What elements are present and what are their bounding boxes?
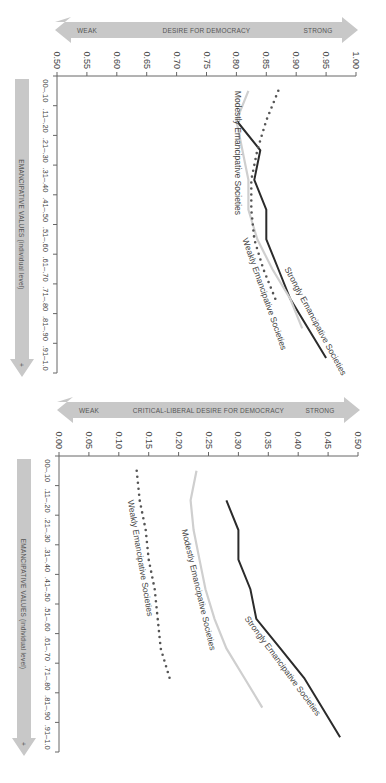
y-tick-label: 0.70 [172,51,182,69]
figure-stage: 0.500.550.600.650.700.750.800.850.900.95… [0,0,386,783]
figure: 0.500.550.600.650.700.750.800.850.900.95… [0,0,386,783]
x-category-label: .21–.30 [43,517,52,542]
plus-icon: + [18,363,25,367]
x-category-label: .91–1.0 [43,725,52,750]
y-tick-label: 0.00 [54,431,64,449]
y-tick-label: 0.40 [293,431,303,449]
series-label: Weakly Emancipative Societies [126,499,156,617]
series-label: Strongly Emancipative Societies [282,265,348,377]
x-category-label: .71–.80 [41,286,50,311]
y-tick-label: 0.05 [84,431,94,449]
x-axis-title: EMANCIPATIVE VALUES (individual level) [19,539,27,669]
y-tick-label: 0.45 [323,431,333,449]
y-tick-label: 0.65 [142,51,152,69]
y-tick-label: 0.20 [174,431,184,449]
y-tick-label: 0.50 [52,51,62,69]
y-axis-strong-label: STRONG [305,407,334,414]
x-category-label: .21–.30 [41,138,50,163]
y-tick-label: 0.95 [321,51,331,69]
y-tick-label: 0.25 [204,431,214,449]
x-category-label: .31–.40 [41,167,50,192]
y-tick-label: 0.55 [82,51,92,69]
x-category-label: .81–.90 [43,695,52,720]
y-tick-label: 0.35 [263,431,273,449]
x-category-label: .41–.50 [41,197,50,222]
y-tick-label: 0.75 [202,51,212,69]
x-category-label: .31–.40 [43,547,52,572]
x-category-label: .81–.90 [41,316,50,341]
y-tick-label: 0.10 [114,431,124,449]
x-category-label: 00–.10 [43,459,52,482]
series-label: Strongly Emancipative Societies [243,614,323,718]
x-category-label: .61–.70 [41,257,50,282]
x-category-label: .51–.60 [41,227,50,252]
plus-icon: + [20,742,27,746]
x-axis-title: EMANCIPATIVE VALUES (individual level) [17,159,25,289]
x-category-label: .51–.60 [43,606,52,631]
y-axis-strong-label: STRONG [303,27,332,34]
x-category-label: .71–.80 [43,665,52,690]
x-category-label: .61–.70 [43,636,52,661]
x-category-label: .11–.20 [41,108,50,132]
chart-left-desire-for-democracy: 0.500.550.600.650.700.750.800.850.900.95… [10,17,361,377]
y-tick-label: 0.80 [231,51,241,69]
chart-right-critical-liberal-desire: 0.000.050.100.150.200.250.300.350.400.45… [12,397,363,756]
y-tick-label: 0.90 [291,51,301,69]
x-category-label: 00–.10 [41,79,50,102]
y-axis-title: CRITICAL-LIBERAL DESIRE FOR DEMOCRACY [133,407,285,414]
y-tick-label: 0.60 [112,51,122,69]
y-tick-label: 0.85 [261,51,271,69]
x-category-label: .91–1.0 [41,346,50,371]
y-axis-weak-label: WEAK [77,27,97,34]
x-category-label: .41–.50 [43,577,52,602]
y-tick-label: 0.15 [144,431,154,449]
y-tick-label: 1.00 [351,51,361,69]
series-label: Modestly Emancipative Societies [233,91,243,215]
y-tick-label: 0.30 [233,431,243,449]
y-axis-weak-label: WEAK [79,407,99,414]
series-label: Modestly Emancipative Societies [180,528,218,651]
y-tick-label: 0.50 [353,431,363,449]
x-category-label: .11–.20 [43,488,52,512]
y-axis-title: DESIRE FOR DEMOCRACY [163,27,251,34]
